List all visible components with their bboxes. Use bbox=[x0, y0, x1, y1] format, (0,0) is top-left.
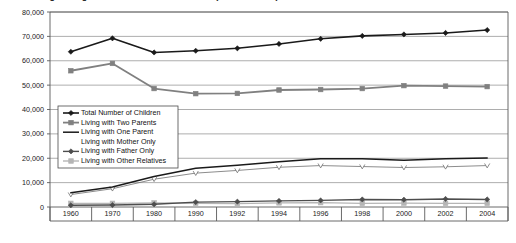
data-point-marker bbox=[69, 68, 74, 73]
x-axis-tick-label: 1998 bbox=[354, 209, 370, 218]
data-point-marker bbox=[193, 91, 198, 96]
data-point-marker bbox=[360, 86, 365, 91]
x-axis-tick-label: 1992 bbox=[229, 209, 245, 218]
data-point-marker bbox=[235, 46, 240, 51]
x-axis-tick-label: 1970 bbox=[104, 209, 120, 218]
y-axis-tick-label: 20,000 bbox=[22, 154, 44, 163]
data-point-marker bbox=[235, 91, 240, 96]
y-axis-tick-label: 40,000 bbox=[22, 105, 44, 114]
data-point-marker bbox=[318, 36, 323, 41]
data-point-marker bbox=[318, 87, 323, 92]
y-axis-tick-label: 70,000 bbox=[22, 32, 44, 41]
legend-item-label: Living with Other Relatives bbox=[81, 156, 166, 165]
legend-item-label: Total Number of Children bbox=[81, 108, 161, 117]
y-axis-tick-label: 80,000 bbox=[22, 8, 44, 17]
x-axis-tick-label: 2000 bbox=[396, 209, 412, 218]
data-point-marker bbox=[360, 33, 365, 38]
data-point-marker bbox=[276, 41, 281, 46]
x-axis-tick-label: 1990 bbox=[188, 209, 204, 218]
y-axis-tick-label: 60,000 bbox=[22, 56, 44, 65]
data-point-marker bbox=[193, 48, 198, 53]
legend-item-label: Living with Father Only bbox=[81, 146, 155, 155]
data-point-marker bbox=[402, 83, 407, 88]
chart-series bbox=[68, 196, 490, 208]
x-axis-tick-label: 2004 bbox=[479, 209, 495, 218]
chart-legend: Total Number of ChildrenLiving with Two … bbox=[58, 106, 178, 168]
chart-container: Living Arrangements of Children Under 18… bbox=[0, 0, 516, 243]
data-point-marker bbox=[443, 84, 448, 89]
x-axis-tick-label: 1996 bbox=[313, 209, 329, 218]
y-axis-tick-label: 30,000 bbox=[22, 129, 44, 138]
chart-series bbox=[68, 163, 490, 196]
line-chart: 010,00020,00030,00040,00050,00060,00070,… bbox=[0, 0, 516, 243]
data-point-marker bbox=[485, 84, 490, 89]
data-point-marker bbox=[443, 30, 448, 35]
y-axis-tick-label: 10,000 bbox=[22, 178, 44, 187]
x-axis-tick-label: 1960 bbox=[63, 209, 79, 218]
data-point-marker bbox=[277, 88, 282, 93]
data-point-marker bbox=[485, 27, 490, 32]
data-point-marker bbox=[110, 61, 115, 66]
data-point-marker bbox=[68, 49, 73, 54]
data-point-marker bbox=[151, 50, 156, 55]
y-axis-tick-label: 0 bbox=[40, 203, 44, 212]
legend-item-label: Living with Mother Only bbox=[81, 137, 156, 146]
legend-item-label: Living with One Parent bbox=[81, 127, 153, 136]
x-axis-tick-label: 1980 bbox=[146, 209, 162, 218]
y-axis-tick-label: 50,000 bbox=[22, 81, 44, 90]
data-point-marker bbox=[69, 159, 74, 164]
x-axis-tick-label: 2002 bbox=[438, 209, 454, 218]
legend-item-label: Living with Two Parents bbox=[81, 118, 157, 127]
data-point-marker bbox=[152, 86, 157, 91]
chart-series bbox=[68, 27, 490, 55]
x-axis-tick-label: 1994 bbox=[271, 209, 287, 218]
chart-series bbox=[69, 61, 490, 96]
data-point-marker bbox=[69, 120, 74, 125]
